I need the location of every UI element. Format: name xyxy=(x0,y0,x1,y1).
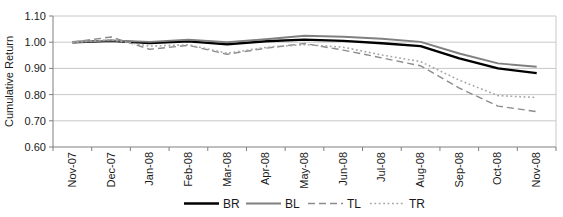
legend-label-BR: BR xyxy=(223,197,240,211)
x-axis-tick-label: Jul-08 xyxy=(375,152,387,182)
x-axis-tick-label: Apr-08 xyxy=(259,152,271,185)
x-axis-tick-label: Nov-07 xyxy=(66,152,78,187)
legend-label-BL: BL xyxy=(285,197,300,211)
y-axis-title: Cumulative Return xyxy=(3,36,15,127)
y-axis-tick-label: 0.60 xyxy=(25,141,46,153)
y-axis-tick-label: 0.70 xyxy=(25,115,46,127)
legend-label-TR: TR xyxy=(409,197,425,211)
x-axis-tick-label: Oct-08 xyxy=(491,152,503,185)
x-axis-tick-label: Sep-08 xyxy=(453,152,465,187)
y-axis-tick-label: 1.10 xyxy=(25,10,46,22)
legend-label-TL: TL xyxy=(347,197,361,211)
y-axis-tick-label: 1.00 xyxy=(25,36,46,48)
y-axis-tick-label: 0.90 xyxy=(25,62,46,74)
y-axis-tick-label: 0.80 xyxy=(25,89,46,101)
x-axis-tick-label: Feb-08 xyxy=(182,152,194,187)
x-axis-tick-label: Dec-07 xyxy=(105,152,117,187)
series-line-TL xyxy=(72,37,536,112)
x-axis-tick-label: Nov-08 xyxy=(530,152,542,187)
x-axis-tick-label: Jun-08 xyxy=(337,152,349,186)
cumulative-return-figure: 0.600.700.800.901.001.10Nov-07Dec-07Jan-… xyxy=(0,0,563,217)
x-axis-tick-label: Aug-08 xyxy=(414,152,426,187)
x-axis-tick-label: Jan-08 xyxy=(143,152,155,186)
cumulative-return-chart: 0.600.700.800.901.001.10Nov-07Dec-07Jan-… xyxy=(0,0,563,217)
x-axis-tick-label: May-08 xyxy=(298,152,310,189)
x-axis-tick-label: Mar-08 xyxy=(221,152,233,187)
